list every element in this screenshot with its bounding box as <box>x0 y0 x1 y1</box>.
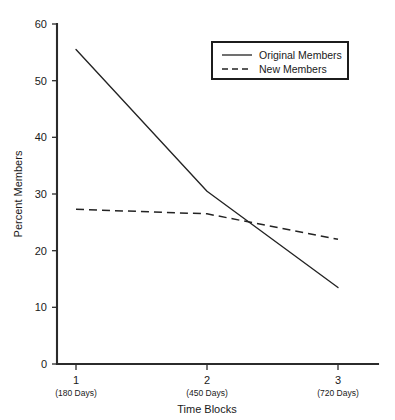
y-tick-label-20: 20 <box>35 245 47 257</box>
chart-canvas: 60 50 40 30 20 10 0 Percent Members 1 (1… <box>0 0 395 420</box>
y-tick-label-50: 50 <box>35 75 47 87</box>
legend-label-new-members: New Members <box>259 63 327 75</box>
x-axis-title: Time Blocks <box>177 403 237 415</box>
series-line-original-members <box>76 50 338 288</box>
x-tick-sublabel-1: (180 Days) <box>55 388 97 398</box>
x-tick-sublabel-2: (450 Days) <box>186 388 228 398</box>
chart-legend: Original Members New Members <box>212 42 348 79</box>
y-tick-label-40: 40 <box>35 131 47 143</box>
x-tick-sublabel-3: (720 Days) <box>317 388 359 398</box>
y-tick-label-0: 0 <box>41 358 47 370</box>
y-tick-label-60: 60 <box>35 18 47 30</box>
x-tick-label-2: 2 <box>204 374 210 386</box>
x-tick-label-3: 3 <box>335 374 341 386</box>
y-tick-label-10: 10 <box>35 301 47 313</box>
x-tick-label-1: 1 <box>73 374 79 386</box>
y-axis-title: Percent Members <box>12 150 24 237</box>
y-tick-label-30: 30 <box>35 188 47 200</box>
legend-label-original-members: Original Members <box>259 49 342 61</box>
line-chart-figure: 60 50 40 30 20 10 0 Percent Members 1 (1… <box>0 0 395 420</box>
series-line-new-members <box>76 209 338 239</box>
